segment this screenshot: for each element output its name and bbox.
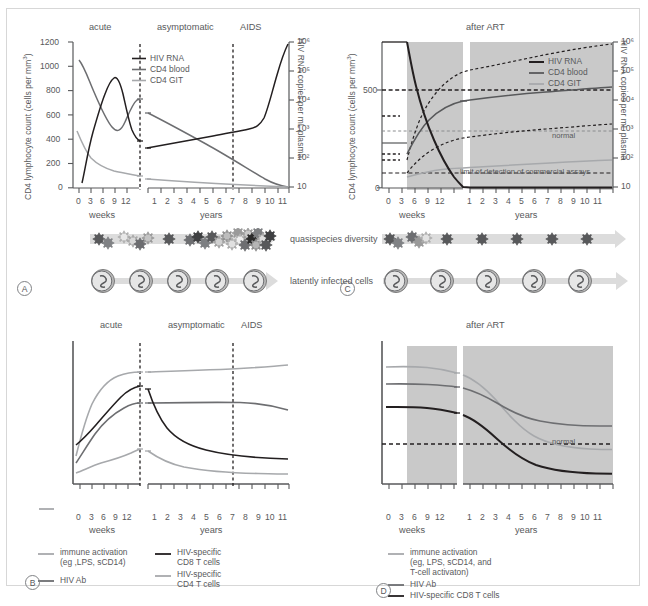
panel-a-xtick-y5: 5: [204, 196, 209, 206]
panel-d-xtick-y2: 2: [480, 512, 485, 522]
panel-b-xtick-y7: 7: [230, 512, 235, 522]
panel-c-y2tick-1e3: 10³: [621, 123, 633, 133]
panel-c-xtick-w12: 12: [435, 196, 445, 206]
panel-b-legend-cd8-sub: CD8 T cells: [177, 558, 220, 568]
panel-d-xtick-y5: 5: [519, 512, 524, 522]
panel-a-y2tick-1e5: 10⁵: [297, 65, 310, 75]
panel-a-ytick-1000: 1000: [40, 61, 59, 71]
panel-c-xtick-y3: 3: [493, 196, 498, 206]
panel-c-ytick-500: 500: [363, 85, 377, 95]
panel-b-legend-cd4-sub: CD4 T cells: [177, 580, 220, 590]
panel-a-ytick-1200: 1200: [40, 37, 59, 47]
panel-d-xtick-w9: 9: [425, 512, 430, 522]
panel-c-xtick-y2: 2: [480, 196, 485, 206]
panel-b-id: B: [25, 575, 40, 590]
panel-a-ytick-600: 600: [46, 110, 60, 120]
panel-c-annot-limit: limit of detection of commercial assays: [460, 167, 590, 176]
panel-b-xtick-w6: 6: [101, 512, 106, 522]
panel-b-xtick-y8: 8: [243, 512, 248, 522]
panel-b-xtick-w3: 3: [89, 512, 94, 522]
panel-b-xtick-y6: 6: [217, 512, 222, 522]
panel-d-xtick-y4: 4: [506, 512, 511, 522]
panel-c-y2tick-1e2: 10²: [621, 152, 633, 162]
panel-a-xtick-w9: 9: [112, 196, 117, 206]
panel-c-xtick-w6: 6: [412, 196, 417, 206]
panel-b-xtick-w0: 0: [76, 512, 81, 522]
panel-b-xtick-y10: 10: [265, 512, 275, 522]
panel-a-ytick-0: 0: [58, 182, 63, 192]
panel-d-xtick-y11: 11: [593, 512, 602, 522]
panel-b-xtick-y4: 4: [191, 512, 196, 522]
panel-d-xtick-w12: 12: [435, 512, 445, 522]
panel-b-phase-asymptomatic: asymptomatic: [168, 320, 225, 330]
panel-a-xtick-y8: 8: [243, 196, 248, 206]
panel-d-xtick-y9: 9: [571, 512, 576, 522]
label-latently-infected-cells: latently infected cells: [290, 276, 373, 286]
panel-d-xtick-w6: 6: [412, 512, 417, 522]
panel-a-legend-cd4-blood: CD4 blood: [150, 65, 190, 75]
panel-d-id: D: [376, 583, 391, 598]
panel-b-unit-years: years: [200, 525, 222, 535]
panel-c-y2tick-1e5: 10⁵: [621, 65, 634, 75]
panel-d-xtick-y10: 10: [580, 512, 590, 522]
panel-a-ytick-400: 400: [46, 134, 60, 144]
panel-a-xtick-w12: 12: [121, 196, 131, 206]
panel-d-xtick-y6: 6: [532, 512, 537, 522]
panel-b-xtick-y3: 3: [178, 512, 183, 522]
panel-c-unit-years: years: [515, 210, 537, 220]
panel-a-unit-years: years: [200, 210, 222, 220]
panel-d-xtick-y3: 3: [493, 512, 498, 522]
panel-a-ytick-200: 200: [46, 158, 60, 168]
panel-d-legend-immune-activation-sub2: T-cell activaton): [410, 568, 469, 578]
panel-c-xtick-w0: 0: [386, 196, 391, 206]
panel-c-xtick-y1: 1: [467, 196, 472, 206]
panel-a-y2tick-1e2: 10²: [297, 152, 309, 162]
panel-d-phase-after-art: after ART: [466, 320, 505, 330]
panel-a-xtick-y6: 6: [217, 196, 222, 206]
panel-c-annot-normal: normal: [552, 131, 575, 140]
panel-c-xtick-w9: 9: [425, 196, 430, 206]
panel-c-unit-weeks: weeks: [399, 210, 425, 220]
panel-c-legend-cd4-git: CD4 GIT: [548, 79, 581, 89]
panel-b-legend-immune-activation-sub: (eg ,LPS, sCD14): [60, 558, 126, 568]
panel-b-legend-hiv-ab: HIV Ab: [60, 576, 86, 586]
panel-b-xtick-y1: 1: [152, 512, 157, 522]
panel-a-xtick-y10: 10: [265, 196, 275, 206]
panel-d-annot-normal: normal: [552, 437, 575, 446]
panel-c-xtick-y4: 4: [506, 196, 511, 206]
panel-a-xtick-y1: 1: [152, 196, 157, 206]
panel-b-xtick-w12: 12: [122, 512, 132, 522]
panel-a-xtick-y4: 4: [191, 196, 196, 206]
panel-d-unit-years: years: [515, 525, 537, 535]
panel-b-xtick-y5: 5: [204, 512, 209, 522]
panel-d-legend-cd8: HIV-specific CD8 T cells: [410, 591, 500, 601]
hiv-progression-figure: CD4 lymphocyte count (cells per mm3) HIV…: [0, 0, 648, 606]
panel-b-xtick-y2: 2: [165, 512, 170, 522]
panel-a-xtick-w0: 0: [76, 196, 81, 206]
panel-c-xtick-y5: 5: [519, 196, 524, 206]
panel-b-xtick-w9: 9: [113, 512, 118, 522]
panel-c-xtick-y8: 8: [558, 196, 563, 206]
panel-b-phase-acute: acute: [100, 320, 122, 330]
panel-a-xtick-y3: 3: [178, 196, 183, 206]
panel-b-unit-weeks: weeks: [89, 525, 115, 535]
panel-a-legend-cd4-git: CD4 GIT: [150, 76, 183, 86]
panel-b-plot: [0, 332, 320, 512]
panel-b-phase-aids: AIDS: [241, 320, 262, 330]
panel-a-y2tick-1e6: 10⁶: [297, 36, 310, 46]
panel-b-xtick-y9: 9: [256, 512, 261, 522]
panel-d-xtick-y1: 1: [467, 512, 472, 522]
panel-a-xtick-w3: 3: [88, 196, 93, 206]
panel-c-xtick-w3: 3: [399, 196, 404, 206]
panel-a-xtick-w6: 6: [100, 196, 105, 206]
panel-a-legend-hiv-rna: HIV RNA: [150, 54, 184, 64]
panel-d-plot: [324, 332, 644, 512]
panel-a-unit-weeks: weeks: [89, 210, 115, 220]
panel-c-xtick-y11: 11: [593, 196, 602, 206]
panel-a-xtick-y7: 7: [230, 196, 235, 206]
panel-c-xtick-y6: 6: [532, 196, 537, 206]
panel-d-xtick-w3: 3: [399, 512, 404, 522]
panel-a-y2tick-1e4: 10⁴: [297, 94, 310, 104]
panel-d-xtick-y8: 8: [558, 512, 563, 522]
panel-d-xtick-y7: 7: [545, 512, 550, 522]
